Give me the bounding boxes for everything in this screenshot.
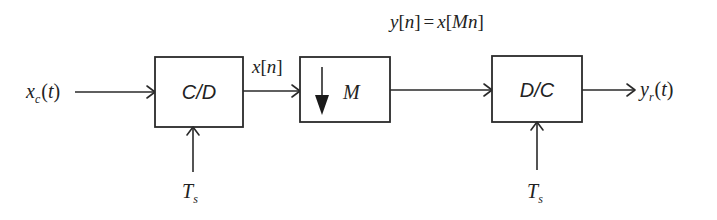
svg-text:x[n]: x[n] xyxy=(251,56,283,77)
svg-text:Ts: Ts xyxy=(527,180,543,206)
block-cd: C/D xyxy=(155,57,243,127)
svg-text:xc(t): xc(t) xyxy=(25,80,60,106)
output-arrow xyxy=(582,84,635,96)
dc-sampling-arrow xyxy=(531,122,543,170)
block-downsampler: M xyxy=(300,57,390,122)
eq-lhs: y xyxy=(388,11,399,32)
block-downsampler-label: M xyxy=(342,81,361,103)
downsampling-equation: y[n]=x[Mn] xyxy=(388,11,484,32)
block-dc-label: D/C xyxy=(520,79,555,101)
dc-sampling-period-label: Ts xyxy=(527,180,543,206)
svg-text:Ts: Ts xyxy=(182,180,198,206)
svg-text:yr(t): yr(t) xyxy=(638,78,673,104)
discrete-signal-label: x[n] xyxy=(251,56,283,77)
downsampling-block-diagram: y[n]=x[Mn] xc(t) C/D Ts x[n] xyxy=(0,0,717,220)
svg-text:y[n]=x[Mn]: y[n]=x[Mn] xyxy=(388,11,484,32)
block-dc: D/C xyxy=(492,56,582,122)
input-arrow xyxy=(75,86,155,98)
downsampled-signal-arrow xyxy=(390,84,492,96)
output-signal-label: yr(t) xyxy=(638,78,673,104)
cd-sampling-arrow xyxy=(187,127,199,172)
cd-sampling-period-label: Ts xyxy=(182,180,198,206)
block-cd-label: C/D xyxy=(182,81,216,103)
discrete-signal-arrow xyxy=(243,85,300,97)
input-signal-label: xc(t) xyxy=(25,80,60,106)
